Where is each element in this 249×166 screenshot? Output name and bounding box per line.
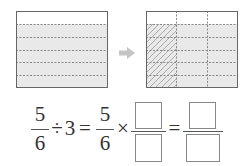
- blank-numerator-box-1[interactable]: [135, 102, 162, 129]
- fraction2-bar: [96, 129, 114, 130]
- right-rectangle-svg: [146, 11, 238, 88]
- divisor: 3: [64, 118, 76, 139]
- blank-denominator-box-2[interactable]: [186, 134, 220, 162]
- blank-fraction2-bar: [183, 131, 223, 132]
- right-arrow-icon: [119, 44, 135, 56]
- right-rectangle: [146, 11, 238, 88]
- fraction1-denominator: 6: [31, 133, 49, 154]
- blank-denominator-box-1[interactable]: [135, 134, 162, 162]
- left-rectangle-svg: [16, 11, 108, 88]
- fraction1-numerator: 5: [31, 104, 49, 125]
- fraction2-numerator: 5: [96, 104, 114, 125]
- left-rectangle: [16, 11, 108, 88]
- blank-numerator-box-2[interactable]: [189, 102, 216, 129]
- divide-sign: ÷: [50, 118, 64, 139]
- equals-sign-1: =: [76, 118, 94, 139]
- times-sign: ×: [115, 118, 131, 139]
- fraction2-denominator: 6: [96, 133, 114, 154]
- equals-sign-2: =: [166, 118, 183, 139]
- blank-fraction1-bar: [131, 131, 166, 132]
- fraction1-bar: [31, 129, 49, 130]
